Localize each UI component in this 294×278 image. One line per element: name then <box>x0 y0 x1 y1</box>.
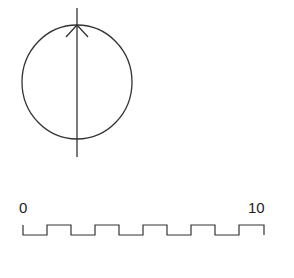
wave-label-start: 0 <box>19 199 27 216</box>
square-wave <box>23 225 264 235</box>
diagram-canvas: 0 10 <box>0 0 294 278</box>
wave-label-end: 10 <box>248 199 265 216</box>
phasor-diagram <box>22 8 132 157</box>
square-wave-path <box>23 225 264 235</box>
